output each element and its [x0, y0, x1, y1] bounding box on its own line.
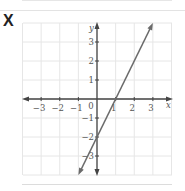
svg-text:−1: −1 [70, 103, 83, 113]
svg-text:x: x [166, 100, 171, 110]
svg-text:y: y [88, 23, 94, 33]
svg-text:−1: −1 [81, 113, 94, 123]
coordinate-plane: −3−2−1123321−1−2−30xy [0, 0, 185, 191]
svg-text:3: 3 [148, 103, 153, 113]
svg-text:−3: −3 [33, 103, 46, 113]
tick-labels: −3−2−1123321−1−2−30xy [33, 23, 171, 161]
svg-text:0: 0 [88, 101, 93, 111]
svg-text:2: 2 [89, 56, 94, 66]
bottom-border [22, 184, 172, 185]
svg-text:−2: −2 [81, 132, 94, 142]
svg-text:3: 3 [89, 37, 94, 47]
svg-text:−2: −2 [51, 103, 64, 113]
svg-text:1: 1 [89, 75, 94, 85]
axes [22, 22, 173, 176]
svg-text:2: 2 [130, 103, 135, 113]
